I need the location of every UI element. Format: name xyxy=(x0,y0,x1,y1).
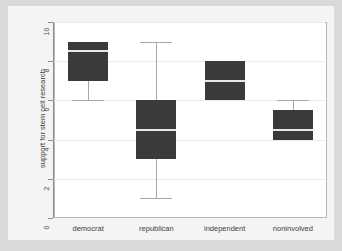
x-tick-label-independent: independent xyxy=(191,224,259,233)
x-tick-label-republican: republican xyxy=(122,224,190,233)
whisker-cap-upper xyxy=(140,42,172,43)
median-line xyxy=(136,129,176,131)
y-tick-label-wrap: 0 xyxy=(34,212,46,224)
whisker-lower xyxy=(88,81,89,100)
y-tick-mark xyxy=(48,140,53,141)
gridline xyxy=(54,179,325,180)
figure-card: support for stem cell research 0246810 d… xyxy=(8,6,334,240)
gridline xyxy=(54,22,325,23)
y-tick-mark xyxy=(48,179,53,180)
figure: support for stem cell research 0246810 d… xyxy=(0,0,342,251)
whisker-upper xyxy=(156,42,157,100)
whisker-cap-upper xyxy=(277,100,309,101)
y-axis-spine xyxy=(53,22,54,218)
x-tick-label-democrat: democrat xyxy=(54,224,122,233)
box-iqr xyxy=(68,42,108,81)
y-tick-mark xyxy=(48,22,53,23)
whisker-cap-lower xyxy=(72,100,104,101)
y-tick-label: 10 xyxy=(43,26,50,38)
gridline xyxy=(54,140,325,141)
whisker-lower xyxy=(156,159,157,198)
y-tick-label: 4 xyxy=(43,144,50,156)
whisker-upper xyxy=(293,100,294,110)
x-tick-label-noninvolved: noninvolved xyxy=(259,224,327,233)
median-line xyxy=(68,50,108,52)
y-tick-label-wrap: 10 xyxy=(34,16,46,28)
whisker-cap-lower xyxy=(140,198,172,199)
y-tick-label-wrap: 4 xyxy=(34,134,46,146)
y-tick-mark xyxy=(48,61,53,62)
y-tick-label-wrap: 2 xyxy=(34,173,46,185)
y-tick-mark xyxy=(48,100,53,101)
box-iqr xyxy=(273,110,313,140)
y-tick-mark xyxy=(48,218,53,219)
y-tick-label-wrap: 8 xyxy=(34,55,46,67)
y-tick-label-wrap: 6 xyxy=(34,94,46,106)
y-tick-label: 6 xyxy=(43,104,50,116)
median-line xyxy=(273,129,313,131)
y-tick-label: 2 xyxy=(43,183,50,195)
median-line xyxy=(205,80,245,82)
y-tick-label: 8 xyxy=(43,65,50,77)
y-tick-label: 0 xyxy=(43,222,50,234)
